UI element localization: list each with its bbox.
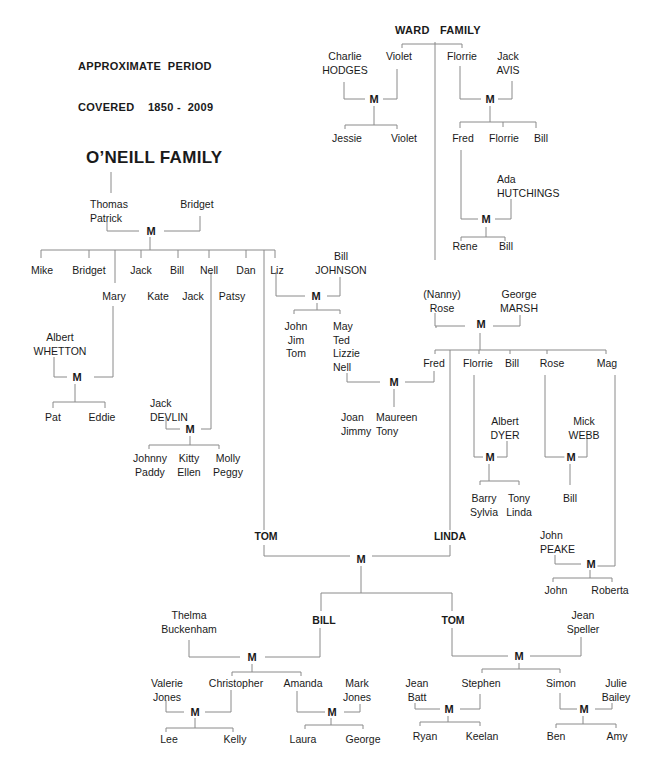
person-linda: LINDA [434,530,466,544]
marriage-marker: M [354,553,367,565]
person-nanny-rose: (Nanny) Rose [423,288,460,315]
person-lee: Lee [160,733,178,747]
person-bill-hutchings: Bill [499,240,513,254]
period-line-1: APPROXIMATE PERIOD [78,60,213,74]
person-patsy: Patsy [219,290,245,304]
person-amy: Amy [607,730,628,744]
marriage-marker: M [584,558,597,570]
person-ryan: Ryan [413,730,438,744]
marriage-marker: M [512,650,525,662]
person-george: George [345,733,380,747]
marriage-marker: M [577,703,590,715]
person-john-jim-tom: John Jim Tom [285,320,308,361]
person-julie-bailey: Julie Bailey [602,677,631,704]
person-barry-sylvia: Barry Sylvia [470,492,498,519]
person-mark-jones: Mark Jones [343,677,371,704]
person-jean-speller: Jean Speller [567,609,600,636]
person-violet: Violet [386,50,412,64]
person-joan-jimmy: Joan Jimmy [341,411,371,438]
marriage-marker: M [367,93,380,105]
person-albert-dyer: Albert DYER [490,415,519,442]
person-mike: Mike [31,264,53,278]
person-george-marsh: George MARSH [500,288,538,315]
person-stephen: Stephen [461,677,500,691]
person-christopher: Christopher [209,677,263,691]
person-john-peake-jr: John [545,584,568,598]
person-john-peake: John PEAKE [540,529,575,556]
person-ada-hutchings: Ada HUTCHINGS [497,173,559,200]
person-thelma-buckenham: Thelma Buckenham [161,609,216,636]
person-jack-oneill: Jack [130,264,152,278]
person-florrie-avis: Florrie [489,132,519,146]
person-johnny-paddy: Johnny Paddy [133,452,167,479]
person-jean-batt: Jean Batt [406,677,429,704]
person-jack-devlin: Jack DEVLIN [150,397,188,424]
oneill-family-title: O’NEILL FAMILY [86,148,222,168]
person-dan: Dan [236,264,255,278]
person-tom-oneill-jr: TOM [441,614,464,628]
person-thomas-patrick: Thomas Patrick [90,198,128,225]
marriage-marker: M [144,225,157,237]
person-fred-marsh: Fred [423,357,445,371]
person-bridget: Bridget [72,264,105,278]
person-mag: Mag [597,357,617,371]
person-nell: Nell [200,264,218,278]
person-ben: Ben [547,730,566,744]
person-bill-johnson: Bill JOHNSON [315,250,366,277]
marriage-marker: M [483,451,496,463]
person-mary: Mary [102,290,125,304]
marriage-marker: M [387,376,400,388]
person-violet-jr: Violet [391,132,417,146]
person-jack-oneill-2: Jack [182,290,204,304]
person-kelly: Kelly [224,733,247,747]
person-florrie: Florrie [447,50,477,64]
person-keelan: Keelan [466,730,499,744]
person-valerie-jones: Valerie Jones [151,677,183,704]
marriage-marker: M [325,706,338,718]
person-kitty-ellen: Kitty Ellen [177,452,200,479]
person-laura: Laura [290,733,317,747]
person-bill-avis: Bill [534,132,548,146]
marriage-marker: M [70,371,83,383]
person-may-ted-lizzie-nell: May Ted Lizzie Nell [333,320,360,374]
person-jessie: Jessie [332,132,362,146]
person-tom-oneill: TOM [254,530,277,544]
marriage-marker: M [479,213,492,225]
person-liz: Liz [270,264,283,278]
person-fred-avis: Fred [452,132,474,146]
marriage-marker: M [564,451,577,463]
person-bill-marsh: Bill [505,357,519,371]
person-mick-webb: Mick WEBB [569,415,600,442]
person-albert-whetton: Albert WHETTON [34,331,87,358]
person-eddie: Eddie [89,411,116,425]
person-charlie-hodges: Charlie HODGES [322,50,368,77]
person-amanda: Amanda [283,677,322,691]
marriage-marker: M [245,651,258,663]
person-kate: Kate [147,290,169,304]
person-molly-peggy: Molly Peggy [213,452,243,479]
person-tony-linda: Tony Linda [506,492,532,519]
marriage-marker: M [188,706,201,718]
person-rene: Rene [452,240,477,254]
person-roberta: Roberta [591,584,628,598]
person-maureen-tony: Maureen Tony [376,411,417,438]
person-rose-marsh: Rose [540,357,565,371]
ward-family-title: WARD FAMILY [395,24,481,38]
period-line-2: COVERED 1850 - 2009 [78,101,213,115]
person-bill-webb: Bill [563,492,577,506]
marriage-marker: M [442,703,455,715]
person-pat: Pat [45,411,61,425]
person-bridget-sr: Bridget [180,198,213,212]
marriage-marker: M [483,93,496,105]
marriage-marker: M [309,290,322,302]
person-bill-oneill: Bill [170,264,184,278]
person-jack-avis: Jack AVIS [496,50,519,77]
marriage-marker: M [474,318,487,330]
person-bill-oneill-jr: BILL [312,614,335,628]
person-florrie-marsh: Florrie [463,357,493,371]
marriage-marker: M [183,423,196,435]
period-caption: APPROXIMATE PERIOD COVERED 1850 - 2009 [78,33,213,128]
person-simon: Simon [546,677,576,691]
